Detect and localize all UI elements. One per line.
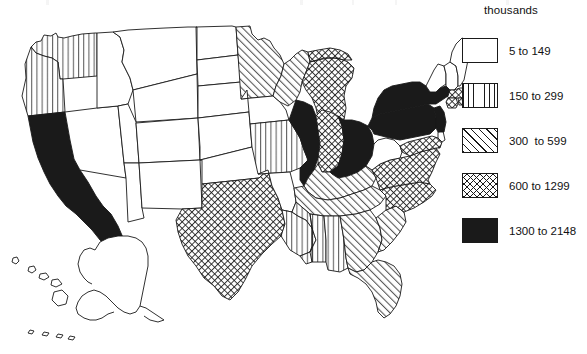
legend-label-1: 150 to 299 (509, 90, 563, 102)
state-AK[interactable]: Alaska — 5 to 149 thousands (76, 236, 164, 322)
us-map: Washington — 150 to 299 thousands Oregon… (0, 0, 470, 354)
legend-swatch-vertical (462, 83, 498, 108)
state-AK-islands: Alaska — 5 to 149 thousands (28, 330, 75, 340)
legend-label-0: 5 to 149 (509, 45, 551, 57)
state-SD[interactable]: South Dakota — 5 to 149 thousands (197, 55, 241, 86)
legend-row-2: 300 to 599 (462, 118, 587, 163)
legend-swatch-blank (462, 38, 498, 63)
state-NM[interactable]: New Mexico — 5 to 149 thousands (139, 160, 202, 209)
legend-row-1: 150 to 299 (462, 73, 587, 118)
state-SC[interactable]: South Carolina — 300 to 599 thousands (376, 206, 406, 252)
state-NJ[interactable]: New Jersey — 1300 to 2148 thousands (434, 106, 446, 132)
legend-swatch-solid (462, 218, 498, 243)
legend-label-3: 600 to 1299 (509, 180, 570, 192)
legend-title: thousands (484, 4, 587, 16)
legend-label-2: 300 to 599 (509, 135, 567, 147)
state-CT[interactable]: Connecticut — 600 to 1299 thousands (446, 98, 458, 108)
legend-swatch-crosshatch (462, 173, 498, 198)
legend-row-3: 600 to 1299 (462, 163, 587, 208)
map-area: Washington — 150 to 299 thousands Oregon… (0, 0, 470, 354)
state-CO[interactable]: Colorado — 5 to 149 thousands (136, 118, 200, 163)
choropleth-figure: Washington — 150 to 299 thousands Oregon… (0, 0, 587, 354)
legend-row-0: 5 to 149 (462, 28, 587, 73)
legend-swatch-diagonal (462, 128, 498, 153)
legend: thousands 5 to 149 150 to 299 300 to 599… (462, 4, 587, 253)
state-HI[interactable]: Hawaii — 5 to 149 thousands (12, 257, 68, 306)
state-ND[interactable]: North Dakota — 5 to 149 thousands (196, 26, 238, 60)
legend-label-4: 1300 to 2148 (509, 225, 576, 237)
legend-row-4: 1300 to 2148 (462, 208, 587, 253)
